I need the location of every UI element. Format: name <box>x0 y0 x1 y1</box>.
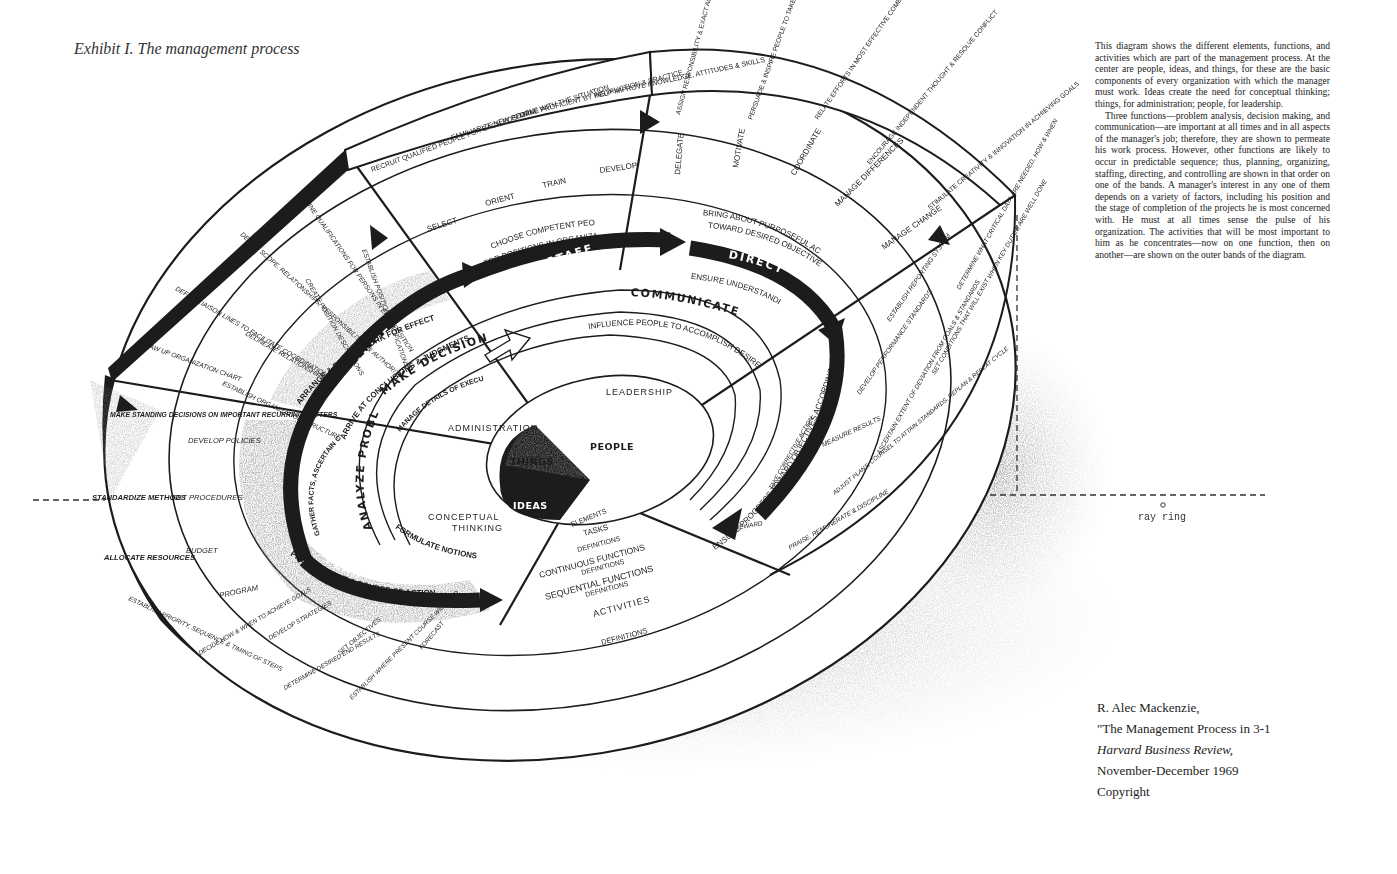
things-label: THINGS <box>510 456 554 467</box>
conceptual-label-1: CONCEPTUAL <box>428 512 500 522</box>
def-allocate: ALLOCATE RESOURCES <box>103 553 195 562</box>
management-process-diagram: PEOPLE THINGS IDEAS LEADERSHIP ADMINISTR… <box>0 0 1397 874</box>
ideas-label: IDEAS <box>513 500 548 511</box>
artist-signature: ray ring <box>1138 512 1186 523</box>
administration-label: ADMINISTRATION <box>448 423 538 433</box>
people-label: PEOPLE <box>590 441 634 452</box>
conceptual-label-2: THINKING <box>452 523 503 533</box>
signature-dot <box>1161 503 1165 507</box>
def-standing-decisions: MAKE STANDING DECISIONS ON IMPORTANT REC… <box>110 411 338 418</box>
activity-develop-policies: DEVELOP POLICIES <box>188 436 261 445</box>
def-standardize: STANDARDIZE METHODS <box>92 493 186 502</box>
leadership-label: LEADERSHIP <box>606 387 673 397</box>
